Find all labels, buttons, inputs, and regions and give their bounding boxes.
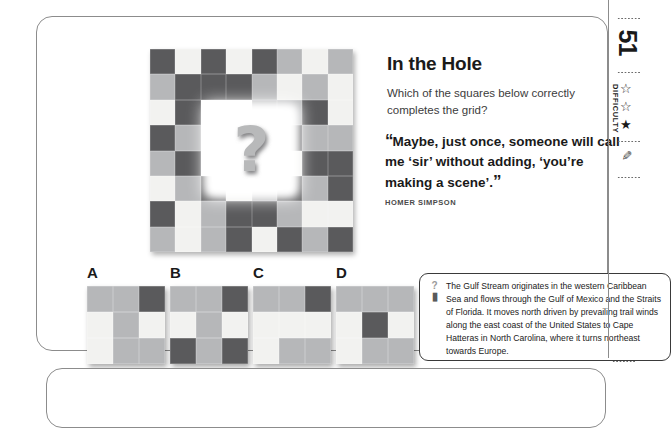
option-cell bbox=[336, 286, 362, 312]
fact-icons: ? ▮ bbox=[427, 280, 442, 302]
difficulty-star-1: ☆ bbox=[620, 82, 633, 95]
option-cell bbox=[87, 286, 113, 312]
option-cell bbox=[170, 312, 196, 338]
sidebar-divider bbox=[608, 0, 609, 358]
difficulty-label: DIFFICULTY bbox=[611, 84, 620, 136]
option-cell bbox=[388, 286, 414, 312]
grid-cell bbox=[175, 74, 200, 99]
option-cell bbox=[362, 338, 388, 364]
grid-cell bbox=[302, 227, 327, 252]
grid-cell bbox=[328, 100, 353, 125]
grid-cell bbox=[302, 49, 327, 74]
quote-open-mark: “ bbox=[385, 131, 393, 150]
grid-cell bbox=[277, 74, 302, 99]
option-cell bbox=[222, 286, 248, 312]
option-cell bbox=[279, 286, 305, 312]
grid-cell bbox=[328, 125, 353, 150]
option-cell bbox=[305, 338, 331, 364]
grid-cell bbox=[277, 227, 302, 252]
grid-cell bbox=[328, 49, 353, 74]
grid-cell bbox=[150, 201, 175, 226]
answer-option-a[interactable]: A bbox=[87, 265, 165, 364]
difficulty-star-3: ★ bbox=[620, 118, 633, 131]
grid-cell bbox=[201, 201, 226, 226]
grid-cell bbox=[175, 176, 200, 201]
option-cell bbox=[305, 286, 331, 312]
option-cell bbox=[253, 338, 279, 364]
grid-cell bbox=[150, 125, 175, 150]
grid-cell bbox=[150, 74, 175, 99]
grid-cell bbox=[175, 49, 200, 74]
main-puzzle-panel: ? In the Hole Which of the squares below… bbox=[36, 16, 608, 351]
option-cell bbox=[279, 338, 305, 364]
option-cell bbox=[196, 338, 222, 364]
answer-option-label: D bbox=[336, 265, 414, 281]
answer-option-grid[interactable] bbox=[336, 286, 414, 364]
answer-option-c[interactable]: C bbox=[253, 265, 331, 364]
option-cell bbox=[139, 338, 165, 364]
option-cell bbox=[170, 286, 196, 312]
option-cell bbox=[113, 312, 139, 338]
grid-cell bbox=[328, 74, 353, 99]
grid-cell bbox=[226, 74, 251, 99]
answer-option-grid[interactable] bbox=[87, 286, 165, 364]
grid-cell bbox=[175, 125, 200, 150]
answer-options: ABCD bbox=[87, 265, 417, 365]
page-title: In the Hole bbox=[387, 53, 482, 75]
option-cell bbox=[279, 312, 305, 338]
dotted-rule bbox=[617, 71, 641, 74]
grid-cell bbox=[226, 49, 251, 74]
answer-option-grid[interactable] bbox=[253, 286, 331, 364]
answer-option-grid[interactable] bbox=[170, 286, 248, 364]
grid-cell bbox=[150, 100, 175, 125]
quote-body: Maybe, just once, someone will call me ‘… bbox=[385, 134, 620, 190]
grid-cell bbox=[201, 227, 226, 252]
option-cell bbox=[305, 312, 331, 338]
answer-option-d[interactable]: D bbox=[336, 265, 414, 364]
grid-cell bbox=[201, 49, 226, 74]
pin-icon: ▮ bbox=[427, 290, 442, 302]
grid-cell bbox=[150, 227, 175, 252]
option-cell bbox=[362, 286, 388, 312]
dotted-rule bbox=[617, 176, 641, 179]
question-mark-icon: ? bbox=[213, 105, 290, 195]
option-cell bbox=[388, 312, 414, 338]
grid-cell bbox=[302, 74, 327, 99]
answer-option-label: B bbox=[170, 265, 248, 281]
option-cell bbox=[113, 338, 139, 364]
option-cell bbox=[139, 312, 165, 338]
dotted-rule bbox=[617, 17, 641, 20]
grid-cell bbox=[226, 201, 251, 226]
grid-cell bbox=[328, 227, 353, 252]
grid-cell bbox=[328, 151, 353, 176]
option-cell bbox=[388, 338, 414, 364]
grid-cell bbox=[150, 176, 175, 201]
grid-cell bbox=[150, 49, 175, 74]
answer-option-b[interactable]: B bbox=[170, 265, 248, 364]
option-cell bbox=[170, 338, 196, 364]
grid-cell bbox=[252, 49, 277, 74]
option-cell bbox=[222, 312, 248, 338]
answer-option-label: C bbox=[253, 265, 331, 281]
grid-cell bbox=[328, 201, 353, 226]
option-cell bbox=[222, 338, 248, 364]
grid-cell bbox=[252, 201, 277, 226]
difficulty-star-2: ☆ bbox=[620, 100, 633, 113]
answer-option-label: A bbox=[87, 265, 165, 281]
grid-cell bbox=[226, 227, 251, 252]
grid-cell bbox=[175, 201, 200, 226]
grid-cell bbox=[150, 151, 175, 176]
dotted-rule bbox=[612, 360, 636, 363]
option-cell bbox=[253, 286, 279, 312]
option-cell bbox=[253, 312, 279, 338]
option-cell bbox=[362, 312, 388, 338]
puzzle-number: 51 bbox=[613, 27, 642, 59]
pencil-icon: ✎ bbox=[619, 150, 634, 161]
next-puzzle-panel bbox=[46, 368, 606, 428]
option-cell bbox=[139, 286, 165, 312]
quote-block: “Maybe, just once, someone will call me … bbox=[385, 130, 623, 207]
grid-cell bbox=[252, 227, 277, 252]
grid-cell bbox=[175, 227, 200, 252]
grid-cell bbox=[252, 74, 277, 99]
option-cell bbox=[336, 338, 362, 364]
